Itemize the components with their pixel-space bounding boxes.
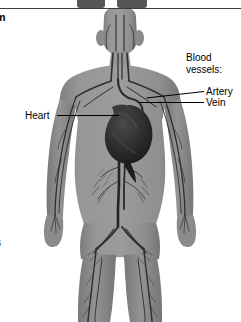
vein-label: Vein: [206, 97, 225, 108]
clipped-figure-leg-left: [77, 0, 105, 8]
vein-leader-line: [140, 102, 204, 103]
artery-label: Artery: [206, 86, 233, 97]
blood-vessels-heading: Blood vessels:: [186, 52, 222, 75]
heart-leader-line: [57, 115, 119, 116]
blood-vessels-heading-line1: Blood: [186, 52, 222, 64]
clipped-left-label: s: [0, 237, 1, 248]
figure-page: tem: [0, 0, 241, 322]
blood-vessels-heading-line2: vessels:: [186, 64, 222, 76]
heart-label: Heart: [25, 110, 49, 121]
clipped-figure-leg-right: [117, 0, 147, 8]
